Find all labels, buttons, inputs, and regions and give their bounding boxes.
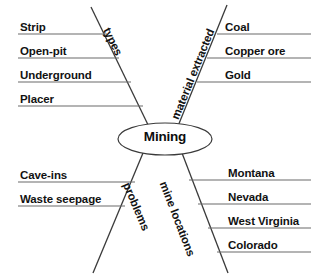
- spine-types: [91, 7, 151, 131]
- item-material-3: Gold: [225, 70, 251, 82]
- fishbone-diagram: Mining Strip Open-pit Underground Placer…: [0, 0, 323, 280]
- item-problems-2: Waste seepage: [20, 194, 101, 206]
- item-material-2: Copper ore: [225, 46, 285, 58]
- item-types-3: Underground: [20, 70, 92, 82]
- item-types-2: Open-pit: [20, 46, 66, 58]
- item-locations-4: Colorado: [228, 240, 278, 252]
- item-types-4: Placer: [20, 94, 54, 106]
- item-locations-3: West Virginia: [228, 216, 299, 228]
- item-locations-1: Montana: [228, 168, 275, 180]
- item-problems-1: Cave-ins: [20, 170, 67, 182]
- item-material-1: Coal: [225, 22, 250, 34]
- center-topic-label: Mining: [118, 130, 212, 144]
- item-types-1: Strip: [20, 22, 46, 34]
- item-locations-2: Nevada: [228, 192, 268, 204]
